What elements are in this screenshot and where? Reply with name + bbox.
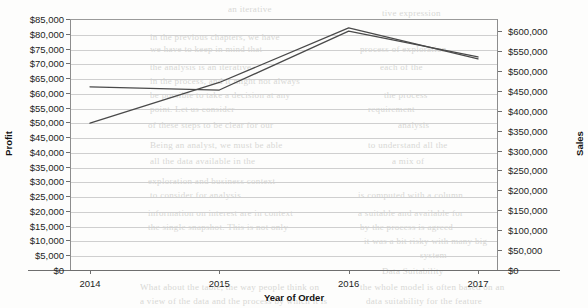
series-lines (0, 0, 588, 308)
series-line-profit (90, 28, 478, 123)
series-line-sales (90, 31, 478, 90)
y-axis-title-sales: Sales (574, 123, 585, 165)
dual-axis-line-chart: an iterativetive expressionin the previo… (0, 0, 588, 308)
x-axis-title: Year of Order (0, 292, 588, 303)
y-axis-title-profit: Profit (3, 123, 14, 165)
